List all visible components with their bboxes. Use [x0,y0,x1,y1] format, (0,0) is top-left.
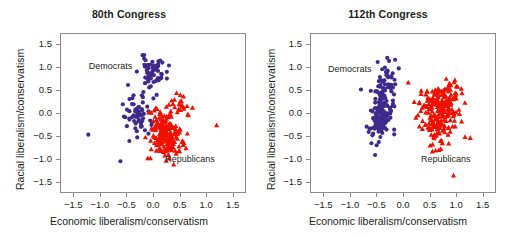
y-tick-mark [306,136,310,137]
plot-area-left [60,33,246,193]
panel-title-right: 112th Congress [259,8,517,20]
x-axis-title-right: Economic liberalism/conservatism [259,215,517,227]
scatter-points-right [311,34,495,192]
figure-scatter-congress-polarization: 80th Congress Racial liberalism/conserva… [0,0,517,238]
y-tick-label: 1.5 [268,38,302,49]
x-tick-mark [430,193,431,197]
x-tick-label: 1.5 [216,199,250,210]
y-tick-label: −1.0 [268,153,302,164]
y-tick-mark [56,159,60,160]
y-tick-label: −1.0 [18,153,52,164]
y-tick-label: −0.5 [18,130,52,141]
y-tick-label: 0.0 [18,107,52,118]
y-tick-mark [56,182,60,183]
y-tick-label: 0.0 [268,107,302,118]
panel-title-left: 80th Congress [0,8,258,20]
y-tick-mark [56,136,60,137]
x-tick-mark [483,193,484,197]
x-tick-mark [403,193,404,197]
y-tick-mark [306,90,310,91]
x-tick-mark [153,193,154,197]
x-axis-title-left: Economic liberalism/conservatism [0,215,258,227]
y-tick-label: 0.5 [268,84,302,95]
scatter-points-left [61,34,245,192]
x-tick-mark [73,193,74,197]
y-tick-mark [56,44,60,45]
y-tick-mark [306,113,310,114]
y-tick-mark [56,113,60,114]
x-tick-mark [376,193,377,197]
x-tick-mark [100,193,101,197]
y-tick-mark [56,90,60,91]
y-tick-label: 1.5 [18,38,52,49]
annotation-republicans: Republicans [165,154,215,164]
annotation-democrats: Democrats [89,61,133,71]
y-tick-mark [306,44,310,45]
x-tick-mark [206,193,207,197]
x-tick-mark [180,193,181,197]
x-tick-mark [456,193,457,197]
y-tick-label: 1.0 [268,61,302,72]
annotation-republicans: Republicans [421,154,471,164]
y-tick-label: 0.5 [18,84,52,95]
y-tick-mark [306,67,310,68]
y-tick-label: −1.5 [18,176,52,187]
annotation-democrats: Democrats [328,64,372,74]
y-tick-mark [306,159,310,160]
x-tick-mark [350,193,351,197]
x-tick-label: 1.5 [466,199,500,210]
panel-112th-congress: 112th Congress Racial liberalism/conserv… [259,0,517,238]
y-tick-label: −1.5 [268,176,302,187]
y-tick-mark [56,67,60,68]
x-tick-mark [323,193,324,197]
y-tick-label: −0.5 [268,130,302,141]
x-tick-mark [233,193,234,197]
x-tick-mark [126,193,127,197]
y-tick-mark [306,182,310,183]
y-tick-label: 1.0 [18,61,52,72]
plot-area-right [310,33,496,193]
panel-80th-congress: 80th Congress Racial liberalism/conserva… [0,0,258,238]
